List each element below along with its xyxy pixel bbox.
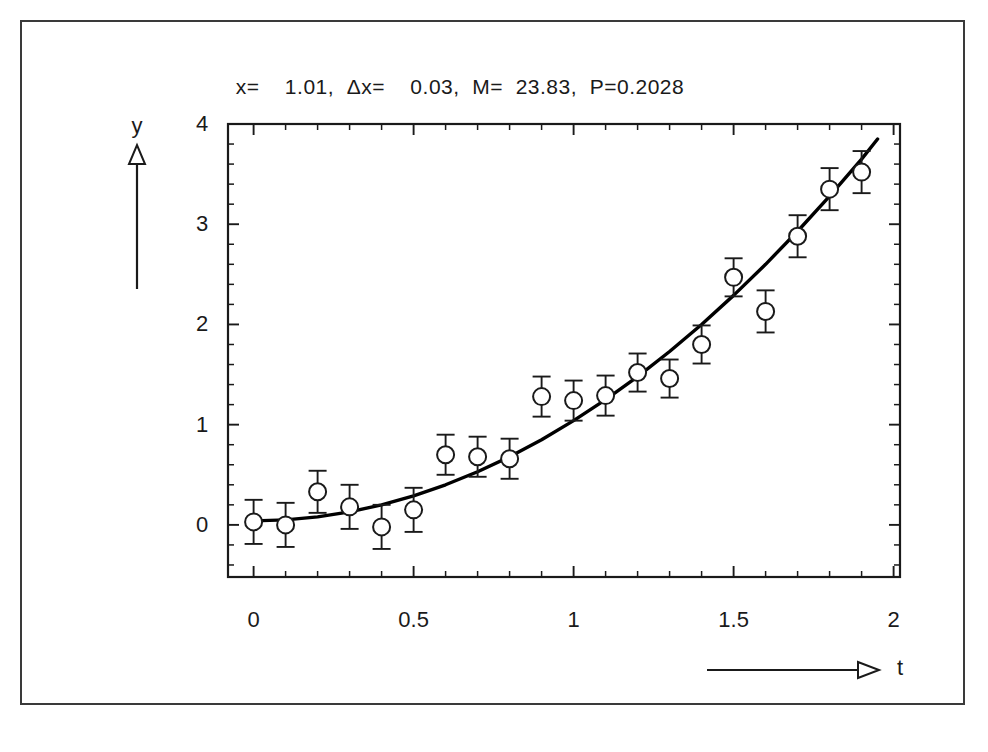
y-tick-label: 3 [196,211,208,237]
data-point [629,354,647,392]
data-point [341,485,359,529]
data-marker [597,387,614,404]
data-point [661,360,679,398]
data-marker [245,513,262,530]
figure-page: x= 1.01, Δx= 0.03, M= 23.83, P=0.202800.… [0,0,988,752]
data-marker [277,516,294,533]
data-point [373,505,391,549]
data-marker [693,336,710,353]
data-marker [341,498,358,515]
data-point [757,290,775,332]
data-point [501,439,519,479]
data-marker [821,181,838,198]
y-tick-label: 4 [196,111,208,137]
data-marker [501,450,518,467]
y-tick-label: 2 [196,311,208,337]
data-marker [309,483,326,500]
y-tick-label: 1 [196,412,208,438]
data-point [277,503,295,547]
plot-frame [228,124,900,577]
plot-title: x= 1.01, Δx= 0.03, M= 23.83, P=0.2028 [236,75,684,99]
data-point [469,437,487,477]
data-marker [533,388,550,405]
data-marker [853,164,870,181]
data-point [853,151,871,193]
data-marker [437,446,454,463]
x-tick-label: 0.5 [398,607,429,633]
data-marker [725,269,742,286]
data-point [597,376,615,416]
plot-canvas [0,0,988,752]
fitted-curve [254,139,878,521]
x-tick-label: 2 [887,607,899,633]
data-point [437,435,455,475]
x-axis-label: t [897,655,903,681]
data-marker [757,303,774,320]
data-marker [789,228,806,245]
data-marker [405,501,422,518]
x-tick-label: 1 [567,607,579,633]
data-marker [565,392,582,409]
x-tick-label: 1.5 [718,607,749,633]
x-tick-label: 0 [247,607,259,633]
t-axis-arrowhead [858,662,879,678]
data-point [245,500,263,544]
y-tick-label: 0 [196,512,208,538]
data-marker [373,518,390,535]
y-axis-label: y [132,113,143,139]
y-axis-arrowhead [129,145,145,164]
data-marker [661,370,678,387]
data-marker [469,448,486,465]
data-point [789,215,807,257]
data-point [309,471,327,513]
data-marker [629,364,646,381]
data-point [533,377,551,417]
